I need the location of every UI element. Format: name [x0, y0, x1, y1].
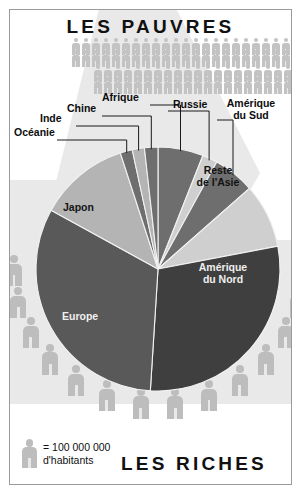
person-icon-body: [292, 55, 293, 68]
label-amerique-du-sud: Amérique du Sud: [222, 98, 280, 121]
legend-line1: = 100 000 000: [43, 441, 110, 454]
label-amerique-du-nord-line2: du Nord: [188, 273, 258, 285]
label-amerique-du-nord-line1: Amérique: [188, 261, 258, 273]
legend-line2: d'habitants: [43, 454, 110, 467]
leader-lines: [10, 10, 292, 485]
legend: = 100 000 000 d'habitants: [22, 439, 110, 468]
label-japon: Japon: [63, 201, 94, 213]
leader-line-inde: [76, 126, 139, 151]
label-amerique-du-sud-line1: Amérique: [222, 98, 280, 110]
person-icon: [291, 38, 292, 55]
label-reste-de-l-asie: Reste de l'Asie: [183, 164, 253, 188]
label-inde: Inde: [40, 113, 62, 125]
leader-line-afrique: [150, 105, 181, 151]
person-icon: [22, 439, 37, 468]
label-russie: Russie: [173, 99, 207, 111]
person-icon-body: [22, 447, 37, 468]
legend-text: = 100 000 000 d'habitants: [43, 441, 110, 466]
poster-title-top: LES PAUVRES: [10, 16, 291, 38]
label-afrique: Afrique: [102, 92, 139, 104]
label-amerique-du-sud-line2: du Sud: [222, 110, 280, 122]
infographic-poster: Océanie Inde Chine Afrique Russie Amériq…: [0, 0, 301, 494]
label-oceanie: Océanie: [14, 127, 55, 139]
leader-line-oc-anie: [57, 140, 127, 153]
label-amerique-du-nord: Amérique du Nord: [188, 261, 258, 285]
person-icon-head: [26, 439, 34, 447]
poster-panel: Océanie Inde Chine Afrique Russie Amériq…: [9, 9, 292, 485]
label-europe: Europe: [62, 310, 98, 322]
label-reste-de-l-asie-line2: de l'Asie: [183, 176, 253, 188]
person-icon: [291, 50, 292, 67]
leader-line-russie: [168, 111, 209, 160]
label-reste-de-l-asie-line1: Reste: [183, 164, 253, 176]
chart-labels: Océanie Inde Chine Afrique Russie Amériq…: [10, 10, 292, 485]
label-chine: Chine: [67, 103, 96, 115]
person-icon-body: [292, 43, 293, 56]
